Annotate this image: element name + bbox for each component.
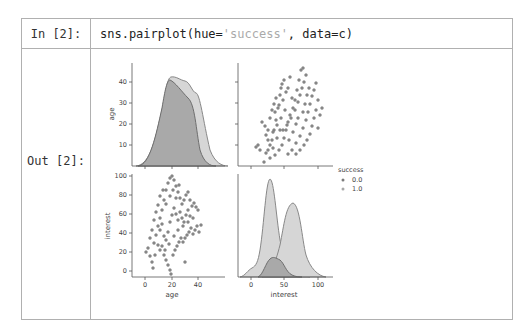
ytick-age-20: 20 (119, 120, 127, 128)
panel-age-kde: 40 30 20 10 age (108, 63, 228, 169)
ylabel-age: age (108, 107, 116, 120)
xtick-age-20: 20 (168, 281, 176, 289)
panel-interest-kde (238, 174, 333, 280)
legend-marker-1 (342, 188, 345, 191)
legend-marker-0 (342, 179, 345, 182)
xtick-age-0: 0 (143, 281, 147, 289)
ytick-interest-40: 40 (119, 229, 127, 237)
xtick-interest-0: 0 (249, 281, 253, 289)
ytick-interest-100: 100 (115, 172, 127, 180)
legend-entry-1: 1.0 (352, 185, 362, 193)
ytick-age-10: 10 (119, 141, 127, 149)
xlabel-age: age (165, 291, 178, 299)
ytick-age-40: 40 (119, 78, 127, 86)
xlabel-interest: interest (271, 291, 298, 299)
panel-interest-age-scatter (129, 174, 225, 280)
legend-title: success (338, 166, 364, 174)
legend-entry-0: 0.0 (352, 176, 362, 184)
xtick-age-40: 40 (194, 281, 202, 289)
ytick-interest-60: 60 (119, 210, 127, 218)
ylabel-interest: interest (104, 212, 112, 239)
ytick-interest-20: 20 (119, 248, 127, 256)
ytick-age-30: 30 (119, 99, 127, 107)
pairplot-figure: 40 30 20 10 age (0, 0, 532, 332)
ytick-interest-0: 0 (123, 267, 127, 275)
legend: success 0.0 1.0 (338, 166, 364, 193)
ytick-interest-80: 80 (119, 191, 127, 199)
xtick-interest-100: 100 (312, 281, 324, 289)
panel-age-interest-scatter (235, 63, 333, 169)
xtick-interest-50: 50 (280, 281, 288, 289)
